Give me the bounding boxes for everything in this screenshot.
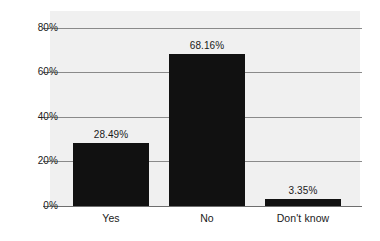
bar-chart: 80% 60% 40% 20% 0% 28.49% 68.16% 3.35% Y…: [0, 0, 380, 241]
bar-no[interactable]: [169, 54, 245, 206]
category-label-yes: Yes: [73, 212, 149, 224]
bar-yes[interactable]: [73, 143, 149, 206]
bar-dont-know[interactable]: [265, 199, 341, 206]
gridline-0: [50, 206, 362, 207]
ytick-label-40: 40%: [8, 112, 58, 122]
gridline-80: [50, 28, 362, 29]
ytick-label-60: 60%: [8, 67, 58, 77]
category-label-no: No: [169, 212, 245, 224]
data-label-yes: 28.49%: [73, 129, 149, 140]
data-label-dont-know: 3.35%: [265, 185, 341, 196]
ytick-label-80: 80%: [8, 23, 58, 33]
category-label-dont-know: Don't know: [265, 212, 341, 224]
ytick-label-20: 20%: [8, 156, 58, 166]
data-label-no: 68.16%: [169, 40, 245, 51]
ytick-label-0: 0%: [8, 201, 58, 211]
